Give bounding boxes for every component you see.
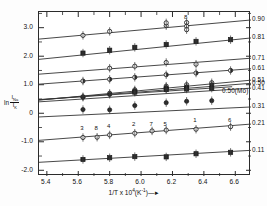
y-tick-label: 2.0 xyxy=(9,52,33,59)
x-tick-label: 6.0 xyxy=(128,178,152,185)
series-label-0.41: 0.41 xyxy=(252,84,265,91)
series-fit-line xyxy=(39,150,251,162)
series-label-0.31: 0.31 xyxy=(252,102,265,109)
point-number: 2 xyxy=(130,121,138,127)
series-label-0.11: 0.11 xyxy=(252,146,264,153)
plot-area xyxy=(38,11,250,175)
point-number: 8 xyxy=(182,14,190,20)
point-number: 1 xyxy=(191,117,199,123)
point-number: 5 xyxy=(161,121,169,127)
series-fit-line xyxy=(39,107,251,117)
series-label-0.21: 0.21 xyxy=(252,119,265,126)
point-number: 6 xyxy=(226,117,234,123)
series-0.61 xyxy=(39,66,251,85)
x-tick-label: 6.4 xyxy=(191,178,215,185)
x-axis-arrow-icon: —▸ xyxy=(148,189,159,196)
series-0.90 xyxy=(39,18,251,39)
y-axis-ln: ln xyxy=(4,99,9,106)
y-tick-label: 0 xyxy=(9,109,33,116)
series-label-0.50-Mo: 0.50(Mo) xyxy=(222,87,248,94)
x-axis-pre: 1/T x 10 xyxy=(108,189,132,196)
series-label-0.71: 0.71 xyxy=(252,54,265,61)
x-tick-label: 6.6 xyxy=(222,178,246,185)
x-tick-label: 5.4 xyxy=(34,178,58,185)
series-0.71 xyxy=(39,58,251,74)
series-fit-line xyxy=(39,69,251,84)
figure-canvas: (Na,K)AlSi3O8 ln INa IK 1/T x 104(K-1)—▸… xyxy=(0,0,267,206)
x-axis-title: 1/T x 104(K-1)—▸ xyxy=(0,188,267,197)
y-tick-label: 3.0 xyxy=(9,23,33,30)
series-0.21 xyxy=(39,122,251,141)
series-fit-line xyxy=(39,20,251,39)
series-0.50 xyxy=(39,81,251,102)
x-tick-label: 5.8 xyxy=(97,178,121,185)
plot-svg xyxy=(39,12,251,176)
point-number: 7 xyxy=(147,121,155,127)
y-tick-label: -1.0 xyxy=(9,137,33,144)
series-fit-line xyxy=(39,38,251,59)
x-tick-label: 5.6 xyxy=(65,178,89,185)
y-tick-label: 1.0 xyxy=(9,80,33,87)
series-0.11 xyxy=(39,148,251,164)
point-number: 3 xyxy=(78,125,86,131)
y-tick-label: -2.0 xyxy=(9,166,33,173)
series-fit-line xyxy=(39,124,251,140)
series-label-0.81: 0.81 xyxy=(252,33,265,40)
point-number: 4 xyxy=(105,123,113,129)
point-number: 8 xyxy=(92,125,100,131)
series-label-0.90: 0.90 xyxy=(252,15,265,22)
series-0.81 xyxy=(39,35,251,59)
series-label-0.61: 0.61 xyxy=(252,64,265,71)
series-fit-line xyxy=(39,58,251,74)
x-tick-label: 6.2 xyxy=(159,178,183,185)
